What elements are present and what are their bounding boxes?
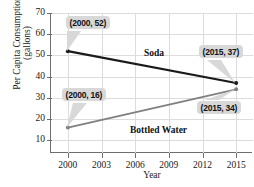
callout-bottled-water-2015: (2015, 34) [197,101,241,114]
y-tick-label: 10 [21,135,45,144]
x-axis-title: Year [50,170,254,180]
x-tick [102,153,103,158]
callout-soda-2015: (2015, 37) [199,45,243,58]
x-tick [169,153,170,158]
y-tick-label: 30 [21,93,45,102]
data-point [234,81,238,85]
data-point [66,126,70,130]
x-tick [68,153,69,158]
x-tick-label: 2015 [219,160,253,170]
callout-bottled-water-2000: (2000, 16) [62,88,106,101]
plot-area: 10203040506070 200020032006200920122015 … [50,13,252,153]
chart-figure: Soda and Bottled Water Per Capita Consum… [0,0,254,187]
x-tick-label: 2009 [152,160,186,170]
x-tick-label: 2006 [118,160,152,170]
callout-soda-2000: (2000, 52) [66,16,110,29]
x-tick-label: 2000 [51,160,85,170]
series-label-soda: Soda [144,48,164,58]
series-label-bottled-water: Bottled Water [130,125,187,135]
x-tick-label: 2003 [85,160,119,170]
y-tick-label: 40 [21,72,45,81]
data-point [234,87,238,91]
x-tick [135,153,136,158]
x-tick [203,153,204,158]
y-tick-label: 60 [21,29,45,38]
y-tick-label: 20 [21,114,45,123]
x-tick [236,153,237,158]
y-tick-label: 50 [21,50,45,59]
y-tick-label: 70 [21,8,45,17]
x-tick-label: 2012 [186,160,220,170]
data-point [66,49,70,53]
